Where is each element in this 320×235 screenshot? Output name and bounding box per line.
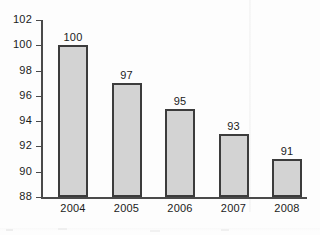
- bar-value-label: 93: [208, 120, 260, 132]
- bar[interactable]: [219, 134, 249, 197]
- bars-layer: 10097959391: [41, 20, 307, 199]
- bar-group[interactable]: 95: [154, 109, 206, 198]
- y-axis-tick-label: 96: [19, 89, 32, 101]
- bar-chart: 889092949698100102 10097959391 200420052…: [0, 0, 320, 235]
- plot-area: 889092949698100102 10097959391 200420052…: [41, 20, 307, 199]
- bar[interactable]: [112, 83, 142, 197]
- x-axis-tick-label: 2006: [154, 202, 206, 214]
- bar-group[interactable]: 93: [208, 134, 260, 197]
- bar-group[interactable]: 100: [47, 45, 99, 197]
- x-axis-tick-label: 2008: [261, 202, 313, 214]
- bar[interactable]: [165, 109, 195, 198]
- bar-value-label: 91: [261, 145, 313, 157]
- scan-artifact-bottom: [0, 228, 320, 231]
- bar-group[interactable]: 97: [101, 83, 153, 197]
- bar[interactable]: [272, 159, 302, 197]
- bar-group[interactable]: 91: [261, 159, 313, 197]
- scan-artifact-mark: [150, 230, 160, 232]
- x-axis-tick-label: 2004: [47, 202, 99, 214]
- y-axis-tick-label: 102: [13, 13, 32, 25]
- y-axis-tick-label: 92: [19, 139, 32, 151]
- y-axis-tick-label: 98: [19, 64, 32, 76]
- bar-value-label: 100: [47, 31, 99, 43]
- y-axis-tick-label: 100: [13, 38, 32, 50]
- bar[interactable]: [58, 45, 88, 197]
- bar-value-label: 95: [154, 95, 206, 107]
- scan-artifact-mark: [58, 228, 67, 230]
- y-axis-tick-label: 88: [19, 190, 32, 202]
- bar-value-label: 97: [101, 69, 153, 81]
- scan-artifact-mark: [221, 229, 229, 231]
- y-axis-tick-label: 94: [19, 114, 32, 126]
- scan-artifact-mark: [6, 229, 13, 231]
- y-axis-tick-label: 90: [19, 165, 32, 177]
- x-axis-tick-label: 2005: [101, 202, 153, 214]
- x-axis-tick-label: 2007: [208, 202, 260, 214]
